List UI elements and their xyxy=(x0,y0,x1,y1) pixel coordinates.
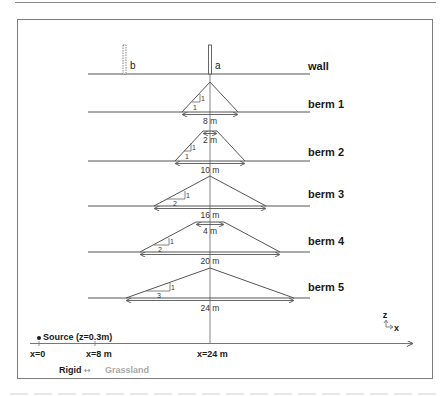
tick-x24: x=24 m xyxy=(197,349,228,359)
svg-text:1: 1 xyxy=(186,192,190,199)
wall-a-label: a xyxy=(215,60,221,71)
berm-5-row: 1 3 24 m berm 5 xyxy=(88,268,344,313)
berm-5-base-width: 24 m xyxy=(201,303,220,313)
svg-text:3: 3 xyxy=(157,292,161,299)
wall-row: b a wall xyxy=(88,45,329,74)
svg-text:2: 2 xyxy=(158,246,162,253)
ground-rigid: Rigid xyxy=(59,365,82,375)
ground-transition-arrow: ↔ xyxy=(84,366,91,375)
row-label-berm-1: berm 1 xyxy=(308,98,344,110)
source-label: Source (z=0.3m) xyxy=(43,332,112,342)
berm-2-base-width: 10 m xyxy=(201,165,220,175)
axes-icon: z x xyxy=(383,310,399,333)
berm-geometry-diagram: b a wall 1 1 8 m berm 1 2 m 1 1 10 m ber… xyxy=(0,0,446,396)
svg-text:1: 1 xyxy=(192,144,196,151)
row-label-berm-5: berm 5 xyxy=(308,281,344,293)
wall-b xyxy=(123,45,126,74)
svg-text:1: 1 xyxy=(185,153,189,160)
berm-4-top-width: 4 m xyxy=(203,226,217,236)
berm-4-row: 4 m 1 2 20 m berm 4 xyxy=(88,222,345,266)
svg-text:1: 1 xyxy=(171,284,175,291)
wall-b-label: b xyxy=(130,60,136,71)
berm-1-row: 1 1 8 m berm 1 xyxy=(88,82,344,126)
svg-text:1: 1 xyxy=(193,104,197,111)
row-label-berm-3: berm 3 xyxy=(308,188,344,200)
berm-3-base-width: 16 m xyxy=(201,210,220,220)
svg-text:2: 2 xyxy=(173,200,177,207)
svg-text:x: x xyxy=(394,323,399,333)
row-label-wall: wall xyxy=(307,60,329,72)
berm-2-top-width: 2 m xyxy=(203,135,217,145)
ground-grassland: Grassland xyxy=(105,365,149,375)
berm-4-base-width: 20 m xyxy=(201,256,220,266)
svg-text:1: 1 xyxy=(201,95,205,102)
svg-text:z: z xyxy=(383,310,388,320)
berm-1-base-width: 8 m xyxy=(203,116,217,126)
source-point xyxy=(37,336,41,340)
berm-2-row: 2 m 1 1 10 m berm 2 xyxy=(88,131,344,175)
wall-a xyxy=(209,45,212,74)
clipped-caption xyxy=(10,390,436,396)
svg-text:1: 1 xyxy=(170,238,174,245)
row-label-berm-2: berm 2 xyxy=(308,146,344,158)
tick-x0: x=0 xyxy=(30,349,45,359)
tick-x8: x=8 m xyxy=(86,349,112,359)
row-label-berm-4: berm 4 xyxy=(308,235,345,247)
berm-3-row: 1 2 16 m berm 3 xyxy=(88,176,344,220)
